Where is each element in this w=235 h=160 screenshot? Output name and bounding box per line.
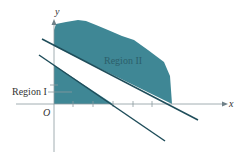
- region-2-label: Region II: [104, 55, 142, 66]
- region-1-label: Region I: [12, 86, 47, 97]
- x-axis-label: x: [228, 98, 234, 109]
- diagram: Region II Region I O x y: [0, 0, 235, 160]
- x-axis-arrow-icon: [222, 102, 228, 107]
- y-axis-arrow-icon: [52, 19, 57, 25]
- origin-label: O: [43, 107, 50, 118]
- y-axis-label: y: [54, 6, 60, 17]
